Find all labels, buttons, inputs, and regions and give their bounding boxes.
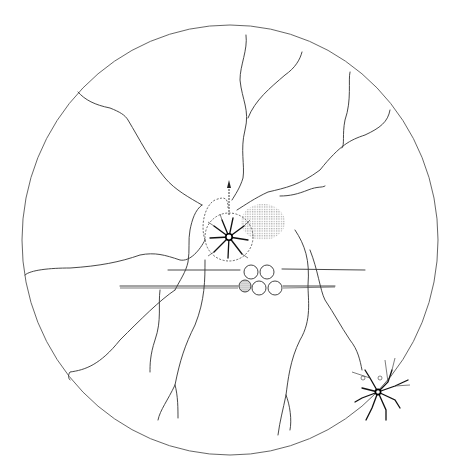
neuron-diagram — [0, 0, 456, 470]
peripheral-cell — [352, 358, 410, 420]
horizontal-tracts — [25, 240, 365, 288]
arrow-icon — [227, 180, 231, 215]
lower-fibers — [69, 230, 363, 435]
upper-fibers — [78, 35, 390, 290]
axon-bundle — [239, 265, 282, 295]
